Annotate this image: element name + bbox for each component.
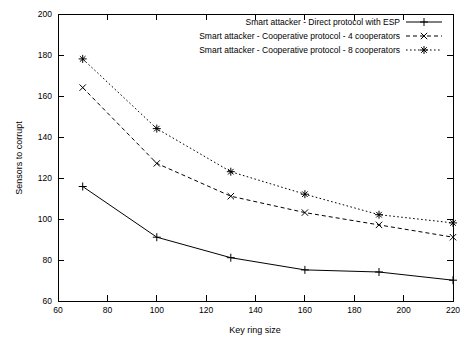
series-3-markers [79, 55, 457, 227]
legend-sample-2 [406, 33, 442, 39]
y-axis-ticks [58, 14, 453, 301]
y-axis-title: Sensors to corrupt [14, 121, 24, 195]
x-tick-label: 220 [446, 305, 460, 315]
chart-container: 60 80 100 120 140 160 180 200 220 [0, 0, 474, 348]
series-1-markers [79, 183, 457, 285]
y-tick-label: 140 [38, 132, 52, 142]
y-tick-label: 120 [38, 173, 52, 183]
x-tick-label: 160 [298, 305, 312, 315]
y-tick-label: 180 [38, 50, 52, 60]
x-axis-ticks [58, 14, 453, 301]
series-8-cooperators [79, 55, 457, 227]
series-direct-protocol [79, 183, 457, 285]
legend-label-2: Smart attacker - Cooperative protocol - … [199, 31, 400, 41]
line-chart: 60 80 100 120 140 160 180 200 220 [0, 0, 474, 348]
x-axis-tick-labels: 60 80 100 120 140 160 180 200 220 [53, 305, 460, 315]
y-axis-tick-labels: 60 80 100 120 140 160 180 200 [38, 9, 52, 306]
legend-label-3: Smart attacker - Cooperative protocol - … [199, 45, 400, 55]
x-tick-label: 140 [248, 305, 262, 315]
legend-sample-1 [406, 18, 442, 26]
series-2-markers [80, 84, 457, 240]
x-tick-label: 80 [103, 305, 113, 315]
y-tick-label: 160 [38, 91, 52, 101]
y-tick-label: 100 [38, 214, 52, 224]
series-4-cooperators [80, 84, 457, 240]
x-tick-label: 180 [347, 305, 361, 315]
y-tick-label: 60 [43, 296, 53, 306]
plot-frame [58, 14, 453, 301]
legend-sample-3 [406, 46, 442, 54]
x-tick-label: 200 [397, 305, 411, 315]
y-tick-label: 80 [43, 255, 53, 265]
y-tick-label: 200 [38, 9, 52, 19]
x-tick-label: 60 [53, 305, 63, 315]
x-tick-label: 120 [199, 305, 213, 315]
x-axis-title: Key ring size [229, 325, 281, 335]
x-tick-label: 100 [150, 305, 164, 315]
chart-legend: Smart attacker - Direct protocol with ES… [199, 17, 442, 55]
legend-label-1: Smart attacker - Direct protocol with ES… [246, 17, 401, 27]
